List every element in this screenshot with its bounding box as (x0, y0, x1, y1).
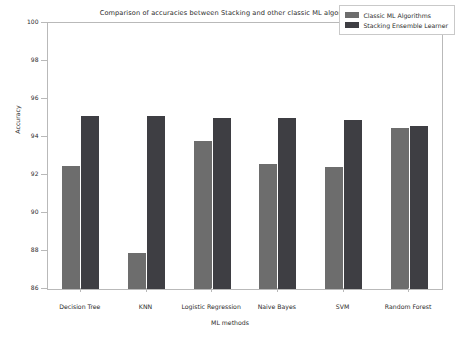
bar (128, 253, 146, 289)
chart-figure: Comparison of accuracies between Stackin… (0, 0, 460, 338)
x-tick-label: Logistic Regression (181, 303, 240, 310)
bar (391, 128, 409, 290)
y-tick-label: 92 (31, 170, 39, 177)
bar (62, 166, 80, 290)
y-tick-label: 94 (31, 132, 39, 139)
x-tick-label: SVM (336, 303, 350, 310)
y-tick: 88 (41, 250, 47, 251)
y-tick: 96 (41, 98, 47, 99)
bar (344, 120, 362, 289)
x-tick (277, 288, 278, 292)
y-tick-label: 90 (31, 208, 39, 215)
bar (81, 116, 99, 289)
chart-legend: Classic ML AlgorithmsStacking Ensemble L… (339, 5, 455, 35)
y-tick: 100 (41, 22, 47, 23)
y-tick-label: 88 (31, 246, 39, 253)
legend-swatch-icon (345, 22, 359, 28)
bar (194, 141, 212, 289)
legend-item: Stacking Ensemble Learner (345, 20, 448, 30)
x-tick-label: Naive Bayes (258, 303, 296, 310)
y-tick: 92 (41, 174, 47, 175)
x-tick (211, 288, 212, 292)
bar (259, 164, 277, 289)
y-tick-label: 86 (31, 284, 39, 291)
x-tick-label: Decision Tree (59, 303, 100, 310)
y-axis-label: Accuracy (14, 75, 21, 165)
y-tick: 90 (41, 212, 47, 213)
legend-swatch-icon (345, 12, 359, 18)
x-axis-label: ML methods (0, 319, 460, 326)
y-tick-label: 100 (27, 18, 38, 25)
bar (147, 116, 165, 289)
plot-area (47, 22, 443, 290)
bar (410, 126, 428, 289)
y-tick: 94 (41, 136, 47, 137)
x-tick (343, 288, 344, 292)
y-tick: 98 (41, 60, 47, 61)
x-tick (146, 288, 147, 292)
y-tick-label: 96 (31, 94, 39, 101)
x-tick-label: KNN (139, 303, 152, 310)
x-tick-label: Random Forest (385, 303, 432, 310)
bar (278, 118, 296, 289)
legend-item: Classic ML Algorithms (345, 10, 448, 20)
bar (325, 167, 343, 289)
legend-label: Classic ML Algorithms (363, 12, 431, 19)
x-tick (408, 288, 409, 292)
bar (213, 118, 231, 289)
legend-label: Stacking Ensemble Learner (363, 22, 448, 29)
y-tick: 86 (41, 288, 47, 289)
y-tick-label: 98 (31, 56, 39, 63)
x-tick (80, 288, 81, 292)
